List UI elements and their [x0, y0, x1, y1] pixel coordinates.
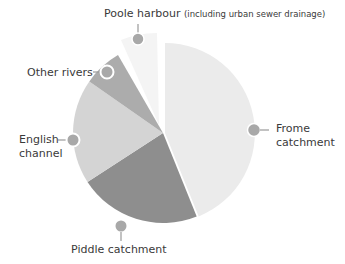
label-piddle-catchment: Piddle catchment — [71, 243, 167, 257]
label-poole-sub: (including urban sewer drainage) — [184, 9, 325, 19]
label-english-channel: English channel — [19, 133, 63, 161]
label-frome-line1: Frome — [276, 122, 335, 136]
label-frome-catchment: Frome catchment — [276, 122, 335, 150]
label-english-line1: English — [19, 133, 63, 147]
callout-piddle — [115, 220, 128, 242]
label-english-line2: channel — [19, 147, 63, 161]
callout-poole — [132, 24, 144, 45]
label-poole-main: Poole harbour — [104, 7, 180, 20]
callout-frome — [248, 124, 270, 137]
label-frome-line2: catchment — [276, 136, 335, 150]
label-poole-harbour: Poole harbour (including urban sewer dra… — [104, 7, 325, 21]
label-other-rivers: Other rivers — [27, 66, 93, 80]
